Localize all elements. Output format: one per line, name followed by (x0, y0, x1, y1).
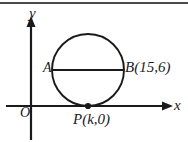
point-p-label: P(k,0) (73, 112, 110, 127)
x-axis-label: x (174, 98, 181, 113)
y-axis-label: y (29, 6, 36, 21)
x-axis-arrow-icon (162, 102, 173, 111)
point-p-dot (85, 103, 91, 109)
point-a-label: A (43, 61, 52, 75)
point-b-label: B(15,6) (125, 60, 170, 75)
geometry-figure: y x O A B(15,6) P(k,0) (0, 0, 188, 142)
origin-label: O (20, 106, 30, 120)
